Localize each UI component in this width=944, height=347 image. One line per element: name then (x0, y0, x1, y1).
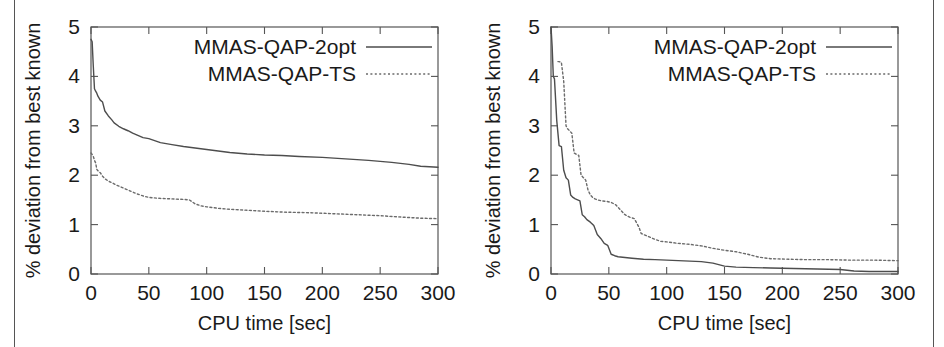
chart-svg: 012345050100150200250300CPU time [sec]% … (14, 0, 474, 347)
x-tick-label: 150 (247, 281, 282, 304)
x-tick-label: 300 (880, 281, 915, 304)
x-tick-label: 250 (363, 281, 398, 304)
x-tick-label: 200 (765, 281, 800, 304)
y-tick-label: 4 (68, 64, 80, 87)
y-tick-label: 3 (528, 114, 540, 137)
x-tick-label: 50 (137, 281, 160, 304)
chart-svg: 012345050100150200250300CPU time [sec]% … (474, 0, 934, 347)
x-tick-label: 100 (189, 281, 224, 304)
figure-container: 012345050100150200250300CPU time [sec]% … (0, 0, 944, 347)
y-axis-label: % deviation from best known (22, 23, 44, 279)
legend-label-2: MMAS-QAP-TS (208, 62, 356, 85)
x-tick-label: 50 (597, 281, 620, 304)
y-tick-label: 0 (528, 262, 540, 285)
x-tick-label: 250 (823, 281, 858, 304)
series-line-2 (558, 62, 898, 261)
x-axis-label: CPU time [sec] (658, 312, 791, 334)
legend-label-1: MMAS-QAP-2opt (654, 35, 816, 58)
y-tick-label: 2 (68, 163, 80, 186)
y-tick-label: 2 (528, 163, 540, 186)
legend-label-2: MMAS-QAP-TS (668, 62, 816, 85)
x-tick-label: 0 (85, 281, 97, 304)
y-tick-label: 4 (528, 64, 540, 87)
x-tick-label: 200 (305, 281, 340, 304)
y-tick-label: 5 (528, 15, 540, 38)
x-axis-label: CPU time [sec] (198, 312, 331, 334)
x-tick-label: 150 (707, 281, 742, 304)
y-tick-label: 1 (68, 213, 80, 236)
y-axis-label: % deviation from best known (482, 23, 504, 279)
y-tick-label: 5 (68, 15, 80, 38)
y-tick-label: 3 (68, 114, 80, 137)
x-tick-label: 100 (649, 281, 684, 304)
y-tick-label: 0 (68, 262, 80, 285)
chart-panel-left: 012345050100150200250300CPU time [sec]% … (14, 0, 474, 347)
x-tick-label: 300 (420, 281, 455, 304)
x-tick-label: 0 (545, 281, 557, 304)
y-tick-label: 1 (528, 213, 540, 236)
series-line-2 (91, 153, 438, 219)
chart-panel-right: 012345050100150200250300CPU time [sec]% … (474, 0, 934, 347)
legend-label-1: MMAS-QAP-2opt (194, 35, 356, 58)
series-line-1 (91, 39, 438, 167)
